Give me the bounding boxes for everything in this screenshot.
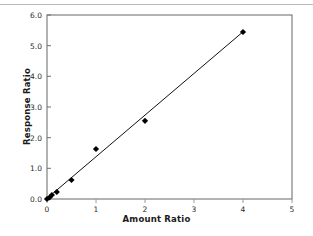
x-tick-label-5: 5 [284, 205, 300, 214]
chart-figure: 0.0 1.0 2.0 3.0 4.0 5.0 6.0 0 1 2 3 4 5 … [0, 0, 313, 236]
y-tick-label-0: 0.0 [20, 195, 42, 204]
x-axis-ticks [47, 199, 292, 203]
x-tick-label-2: 2 [137, 205, 153, 214]
x-tick-label-3: 3 [186, 205, 202, 214]
x-tick-label-0: 0 [39, 205, 55, 214]
x-axis-title: Amount Ratio [0, 214, 313, 224]
y-tick-label-6: 6.0 [20, 11, 42, 20]
data-point [93, 146, 99, 152]
data-point [142, 118, 148, 124]
regression-line [47, 32, 243, 199]
y-axis-title: Response Ratio [22, 68, 32, 145]
y-axis-ticks [47, 15, 51, 199]
data-point [68, 177, 74, 183]
data-point [54, 189, 60, 195]
plot-frame [47, 15, 292, 199]
chart-canvas [0, 0, 313, 236]
x-tick-label-4: 4 [235, 205, 251, 214]
x-tick-label-1: 1 [88, 205, 104, 214]
